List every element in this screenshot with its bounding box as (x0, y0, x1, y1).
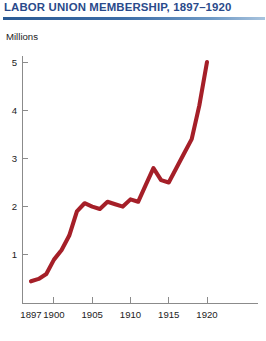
x-tick-label: 1910 (120, 309, 141, 320)
x-tick-label: 1920 (196, 309, 217, 320)
chart-header: LABOR UNION MEMBERSHIP, 1897–1920 (0, 0, 266, 26)
x-axis: 189719001905191019151920 (20, 297, 258, 320)
y-axis: 12345 (12, 56, 28, 304)
y-tick-label: 3 (12, 153, 17, 164)
chart-figure: LABOR UNION MEMBERSHIP, 1897–1920 Millio… (0, 0, 266, 341)
x-tick-label: 1897 (20, 309, 41, 320)
x-tick-label: 1900 (43, 309, 64, 320)
y-tick-label: 2 (12, 201, 17, 212)
plot-area: Millions 12345 189719001905191019151920 (0, 26, 266, 341)
y-tick-label: 5 (12, 57, 17, 68)
data-series-line (31, 62, 207, 281)
page-title: LABOR UNION MEMBERSHIP, 1897–1920 (4, 1, 232, 13)
x-tick-label: 1915 (158, 309, 179, 320)
x-tick-label: 1905 (82, 309, 103, 320)
y-tick-label: 1 (12, 249, 17, 260)
title-divider (3, 17, 265, 20)
y-tick-label: 4 (12, 105, 18, 116)
line-chart-svg: 12345 189719001905191019151920 (0, 26, 266, 341)
